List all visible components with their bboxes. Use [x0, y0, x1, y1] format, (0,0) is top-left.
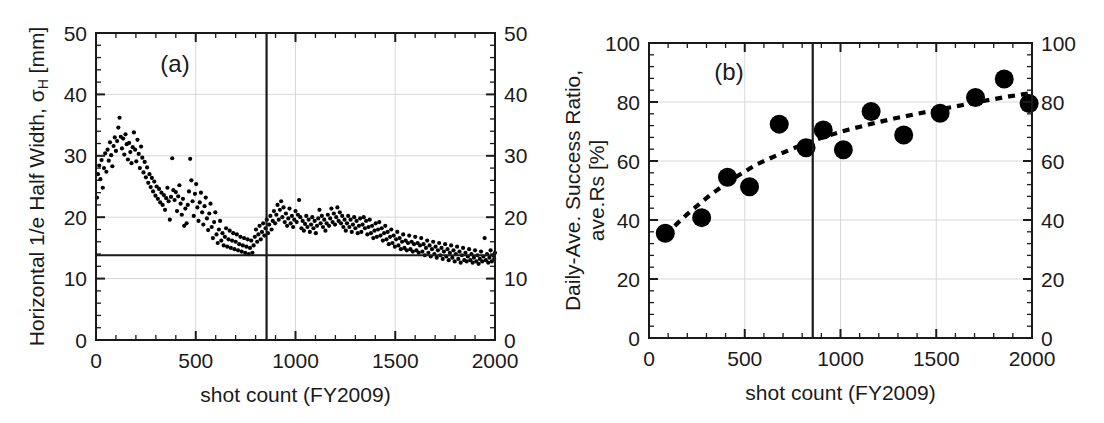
data-point: [289, 221, 293, 225]
data-point: [834, 140, 853, 159]
data-point: [455, 245, 459, 249]
data-point: [234, 240, 238, 244]
data-point: [120, 146, 124, 150]
data-point: [356, 231, 360, 235]
tick-label-x: 1000: [272, 349, 319, 372]
tick-label-y-left: 100: [605, 32, 640, 55]
panel-a: 05001000150020000102030405001020304050sh…: [0, 0, 552, 423]
data-point: [368, 218, 372, 222]
data-point: [445, 247, 449, 251]
data-point: [156, 197, 160, 201]
axis-title-y-left-line2: ave.Rs [%]: [585, 140, 608, 242]
data-point: [290, 214, 294, 218]
data-point: [249, 238, 253, 242]
data-point: [381, 238, 385, 242]
data-point: [483, 236, 487, 240]
data-point: [369, 231, 373, 235]
data-point: [467, 247, 471, 251]
data-point: [257, 224, 261, 228]
data-point: [199, 191, 203, 195]
data-point: [311, 226, 315, 230]
data-point: [129, 161, 133, 165]
data-point: [240, 249, 244, 253]
data-point: [966, 88, 985, 107]
data-point: [202, 204, 206, 208]
data-point: [195, 205, 199, 209]
tick-label-y-left: 20: [64, 206, 87, 229]
data-point: [184, 221, 188, 225]
tick-label-y-left: 20: [617, 268, 640, 291]
data-point: [213, 210, 217, 214]
data-point: [407, 234, 411, 238]
tick-label-y-right: 20: [1041, 268, 1064, 291]
data-point: [196, 219, 200, 223]
data-point: [323, 229, 327, 233]
data-point: [285, 224, 289, 228]
data-point: [341, 225, 345, 229]
data-point: [439, 246, 443, 250]
data-point: [371, 236, 375, 240]
data-point: [390, 241, 394, 245]
data-point: [308, 230, 312, 234]
tick-label-y-right: 60: [1041, 150, 1064, 173]
data-point: [383, 224, 387, 228]
data-point: [123, 132, 127, 136]
data-point: [305, 225, 309, 229]
data-point: [449, 243, 453, 247]
tick-label-y-right: 80: [1041, 91, 1064, 114]
tick-label-x: 0: [90, 349, 102, 372]
data-point: [198, 200, 202, 204]
data-point: [333, 222, 337, 226]
gridlines: [649, 43, 1032, 338]
data-point: [105, 148, 109, 152]
tick-label-y-left: 0: [628, 327, 640, 350]
axis-titles: shot count (FY2009): [745, 381, 935, 404]
data-point: [128, 150, 132, 154]
tick-label-y-right: 40: [1041, 209, 1064, 232]
data-point: [226, 237, 230, 241]
data-point: [110, 164, 114, 168]
data-point: [347, 225, 351, 229]
data-point: [168, 218, 172, 222]
data-point: [102, 166, 106, 170]
data-point: [278, 208, 282, 212]
data-point: [387, 242, 391, 246]
data-point: [332, 211, 336, 215]
data-point: [283, 220, 287, 224]
data-point: [399, 247, 403, 251]
data-point: [461, 246, 465, 250]
data-point: [366, 225, 370, 229]
data-point: [261, 221, 265, 225]
data-point: [421, 242, 425, 246]
data-point: [471, 261, 475, 265]
data-point: [180, 213, 184, 217]
data-point: [259, 237, 263, 241]
data-point: [346, 214, 350, 218]
data-point: [211, 236, 215, 240]
data-point: [193, 192, 197, 196]
data-point: [246, 237, 250, 241]
data-point: [200, 210, 204, 214]
tick-label-x: 0: [643, 347, 655, 370]
data-point: [237, 242, 241, 246]
tick-label-x: 2000: [1009, 347, 1056, 370]
data-point: [364, 219, 368, 223]
data-point: [147, 172, 151, 176]
data-point: [293, 209, 297, 213]
data-point: [248, 246, 252, 250]
data-point: [173, 198, 177, 202]
panel-tag: (b): [714, 58, 743, 85]
data-point: [287, 207, 291, 211]
data-point: [232, 247, 236, 251]
data-point: [441, 257, 445, 261]
data-point: [279, 199, 283, 203]
data-point: [396, 243, 400, 247]
tick-label-x: 1500: [913, 347, 960, 370]
data-point: [447, 258, 451, 262]
data-point: [375, 235, 379, 239]
data-point: [392, 234, 396, 238]
data-point: [377, 220, 381, 224]
data-point: [218, 219, 222, 223]
tick-label-y-left: 40: [617, 209, 640, 232]
data-point: [380, 226, 384, 230]
